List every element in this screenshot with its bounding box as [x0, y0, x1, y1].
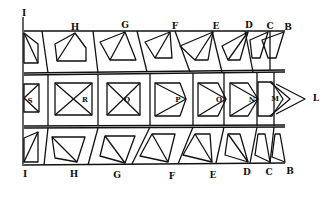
label-mid-r: R: [82, 96, 88, 103]
label-bottom-b: B: [286, 167, 294, 176]
label-top-e: E: [213, 22, 220, 31]
label-bottom-g: G: [113, 171, 121, 180]
label-mid-p: P: [175, 96, 180, 103]
label-bottom-e: E: [210, 171, 217, 180]
label-bottom-d: D: [243, 168, 251, 177]
label-bottom-c: C: [265, 168, 272, 177]
label-top-i: I: [22, 9, 26, 18]
label-top-g: G: [121, 21, 129, 30]
label-mid-o: O: [216, 96, 222, 103]
bottom-row-tiles: [24, 127, 285, 165]
label-mid-s: S: [27, 97, 32, 104]
label-mid-q: Q: [124, 96, 130, 103]
label-top-h: H: [71, 23, 80, 32]
label-top-c: C: [266, 22, 273, 31]
top-row-tiles: [24, 32, 284, 63]
label-top-b: B: [284, 23, 292, 32]
label-bottom-i: I: [23, 170, 27, 179]
label-bottom-h: H: [70, 170, 79, 179]
label-mid-l: L: [313, 94, 319, 103]
middle-row-tiles: [24, 72, 305, 126]
label-mid-n: N: [249, 96, 255, 103]
label-top-f: F: [172, 22, 178, 31]
label-bottom-f: F: [169, 172, 175, 181]
label-top-d: D: [245, 21, 253, 30]
label-mid-m: M: [271, 95, 279, 102]
